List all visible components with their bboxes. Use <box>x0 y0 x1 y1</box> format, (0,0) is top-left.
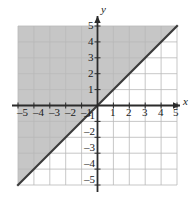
x-tick-label: 2 <box>126 107 132 118</box>
y-tick-label: –1 <box>84 110 95 121</box>
graph-figure: –5 –4 –3 –2 –1 1 2 3 4 5 5 4 3 2 1 –1 –2… <box>0 0 195 197</box>
coordinate-plane-svg <box>0 0 195 197</box>
x-tick-label: 1 <box>110 107 116 118</box>
y-tick-label: –3 <box>84 142 95 153</box>
y-tick-label: 5 <box>88 20 94 31</box>
y-tick-label: –2 <box>84 126 95 137</box>
y-tick-label: 1 <box>88 84 94 95</box>
y-axis-name: y <box>101 4 106 15</box>
x-tick-label: –4 <box>33 107 44 118</box>
x-tick-label: 3 <box>142 107 148 118</box>
x-tick-label: –2 <box>65 107 76 118</box>
y-tick-label: –5 <box>84 174 95 185</box>
y-tick-label: 2 <box>88 68 94 79</box>
y-tick-label: 3 <box>88 52 94 63</box>
y-tick-label: 4 <box>88 36 94 47</box>
x-axis-name: x <box>183 96 188 107</box>
x-tick-label: 4 <box>158 107 164 118</box>
x-tick-label: –5 <box>17 107 28 118</box>
x-tick-label: 5 <box>173 107 179 118</box>
x-tick-label: –3 <box>49 107 60 118</box>
y-tick-label: –4 <box>84 158 95 169</box>
